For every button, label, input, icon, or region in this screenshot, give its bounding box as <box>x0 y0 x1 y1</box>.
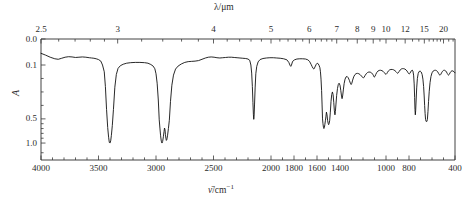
spectrum-trace <box>41 53 455 143</box>
plot-frame <box>41 39 455 160</box>
spectrum-plot-area <box>0 0 470 206</box>
ir-spectrum-figure: λ/μm ν̄/cm−1 A 2.5345678910121520 400035… <box>0 0 470 206</box>
left-axis-ticks <box>41 39 46 153</box>
top-axis-ticks <box>41 39 453 44</box>
bottom-axis-ticks <box>41 156 455 161</box>
